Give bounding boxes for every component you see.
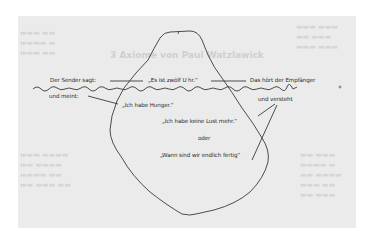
interpretation-2-text: „Wann sind wir endlich fertig“ bbox=[160, 152, 240, 159]
sender-label: Der Sender sagt: bbox=[50, 77, 96, 84]
message-text: „Es ist zwölf U hr.“ bbox=[148, 77, 198, 84]
receiver-understanding-label: und versteht bbox=[258, 96, 293, 103]
arrow-versteht-to-interpretation-2 bbox=[252, 105, 277, 160]
sender-meaning-label: und meint: bbox=[49, 93, 79, 100]
connector-meint-hunger bbox=[88, 96, 118, 104]
meaning-text: „Ich habe Hunger.“ bbox=[122, 102, 174, 109]
receiver-label: Das hört der Empfänger bbox=[250, 77, 315, 84]
interpretation-1-text: „Ich habe keine Lust mehr.“ bbox=[162, 118, 237, 125]
waterline bbox=[33, 84, 297, 91]
separator-oder: oder bbox=[198, 135, 210, 142]
